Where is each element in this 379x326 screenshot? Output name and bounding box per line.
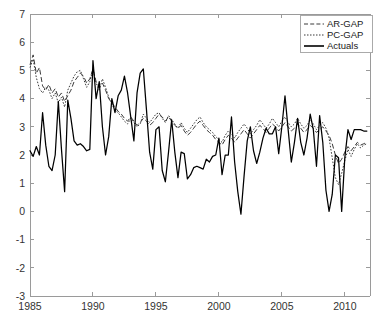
- legend-label-pc-gap: PC-GAP: [327, 29, 363, 40]
- y-tick-label: 0: [19, 205, 25, 217]
- x-tick-label: 2010: [333, 300, 357, 312]
- y-tick-label: -2: [16, 262, 25, 274]
- line-chart: -3-2-101234567198519901995200020052010 A…: [0, 0, 379, 326]
- y-tick-label: 7: [19, 8, 25, 20]
- chart-figure: -3-2-101234567198519901995200020052010 A…: [0, 0, 379, 326]
- y-tick-label: 5: [19, 64, 25, 76]
- y-tick-label: 4: [19, 92, 25, 104]
- x-tick-label: 1990: [81, 300, 105, 312]
- y-tick-label: 3: [19, 121, 25, 133]
- series-line-actuals: [30, 61, 367, 215]
- y-tick-label: 2: [19, 149, 25, 161]
- x-tick-label: 1995: [144, 300, 168, 312]
- legend-label-ar-gap: AR-GAP: [327, 18, 363, 29]
- chart-legend: AR-GAPPC-GAPActuals: [300, 15, 372, 52]
- y-tick-label: 6: [19, 36, 25, 48]
- y-tick-label: -1: [16, 233, 25, 245]
- x-tick-label: 2005: [270, 300, 294, 312]
- x-tick-label: 2000: [207, 300, 231, 312]
- data-series: [30, 55, 367, 214]
- axis-frame-left-bottom: [30, 14, 370, 296]
- x-tick-label: 1985: [18, 300, 42, 312]
- y-tick-label: 1: [19, 177, 25, 189]
- legend-label-actuals: Actuals: [327, 40, 358, 51]
- axis-frame-top-right: [30, 14, 370, 296]
- series-line-ar-gap: [30, 55, 367, 164]
